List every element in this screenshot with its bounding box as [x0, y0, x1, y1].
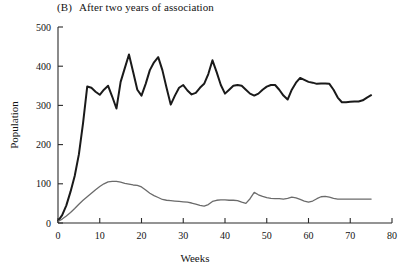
x-axis-tick-label: 40: [220, 230, 230, 241]
figure-panel-b: (B)After two years of association 010020…: [0, 0, 409, 266]
x-axis-tick-label: 60: [304, 230, 314, 241]
y-axis-tick-label: 0: [46, 218, 51, 229]
x-axis-tick-label: 10: [95, 230, 105, 241]
y-axis-tick-label: 500: [36, 22, 51, 33]
population-line-chart: 010020030040050001020304050607080WeeksPo…: [0, 0, 409, 266]
x-axis-tick-label: 70: [345, 230, 355, 241]
chart-axes: [58, 27, 392, 223]
x-axis-tick-label: 50: [262, 230, 272, 241]
chart-labels: 010020030040050001020304050607080WeeksPo…: [8, 22, 397, 265]
x-axis-tick-label: 30: [178, 230, 188, 241]
x-axis-title: Weeks: [180, 252, 209, 264]
chart-series: [58, 54, 371, 221]
x-axis-tick-label: 20: [137, 230, 147, 241]
y-axis-title: Population: [8, 101, 20, 149]
x-axis-tick-label: 0: [56, 230, 61, 241]
y-axis-tick-label: 200: [36, 139, 51, 150]
y-axis-tick-label: 400: [36, 61, 51, 72]
x-axis-tick-label: 80: [387, 230, 397, 241]
series-line-2: [58, 181, 371, 221]
y-axis-tick-label: 100: [36, 178, 51, 189]
y-axis-tick-label: 300: [36, 100, 51, 111]
